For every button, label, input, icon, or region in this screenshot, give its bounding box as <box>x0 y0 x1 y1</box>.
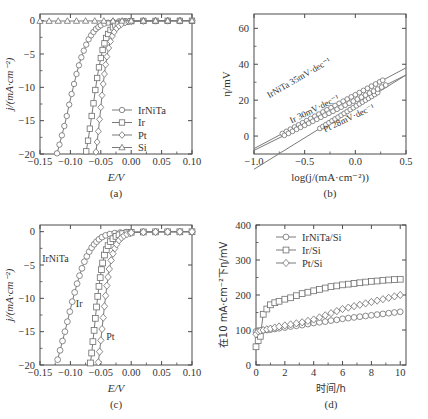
data-point-circle <box>340 316 346 322</box>
data-point-circle <box>374 312 380 318</box>
series-line <box>57 21 192 154</box>
data-point-diamond <box>103 61 109 68</box>
y-tick-label: −10 <box>19 82 35 93</box>
data-point-circle <box>64 113 69 118</box>
data-point-square <box>283 247 289 253</box>
data-point-circle <box>334 317 340 323</box>
data-point-diamond <box>386 294 392 301</box>
data-point-square <box>119 120 124 125</box>
x-tick-label: 0.5 <box>399 156 412 167</box>
x-tick-label: −0.05 <box>89 367 113 378</box>
data-point-diamond <box>108 257 114 264</box>
data-point-square <box>89 350 95 356</box>
y-tick-label: 20 <box>239 95 250 106</box>
data-point-square <box>328 284 334 290</box>
data-point-diamond <box>100 81 106 88</box>
data-point-square <box>100 47 105 52</box>
data-point-square <box>94 304 100 310</box>
data-point-square <box>253 344 259 350</box>
y-tick-label: 0 <box>246 360 251 371</box>
data-point-square <box>98 55 103 60</box>
annotation-irnita: IrNiTa 35mV·dec⁻¹ <box>265 55 332 100</box>
data-point-square <box>276 298 282 304</box>
x-tick-label: 0 <box>253 367 258 378</box>
x-tick-label: 10 <box>395 367 406 378</box>
data-point-diamond <box>105 273 111 280</box>
legend-label: Pt/Si <box>302 258 323 269</box>
panel-a: −0.15−0.10−0.050.000.050.100−5−10−15−20E… <box>0 0 214 210</box>
data-point-square <box>102 252 108 258</box>
x-tick-label: 0.05 <box>152 156 170 167</box>
legend-label: Si <box>138 142 147 153</box>
data-point-circle <box>57 142 62 147</box>
series-group <box>253 276 404 349</box>
x-tick-label: 2 <box>282 367 287 378</box>
legend-label: IrNiTa/Si <box>302 232 342 243</box>
series-IrNiTa <box>55 229 195 363</box>
data-point-square <box>91 101 96 106</box>
data-point-square <box>84 149 89 154</box>
data-point-diamond <box>397 291 403 298</box>
y-tick-label: −5 <box>24 49 35 60</box>
x-tick-label: 8 <box>369 367 374 378</box>
data-point-diamond <box>322 312 328 319</box>
data-point-diamond <box>94 139 100 146</box>
data-point-circle <box>380 78 385 83</box>
y-axis-label: j/(mA·cm⁻²) <box>3 268 16 323</box>
inline-label-ir: Ir <box>76 298 83 309</box>
y-tick-label: −10 <box>19 293 35 304</box>
data-point-circle <box>357 314 363 320</box>
axes-frame <box>256 225 406 365</box>
y-tick-label: 60 <box>239 23 250 34</box>
x-tick-label: 6 <box>340 367 345 378</box>
data-point-square <box>100 260 106 266</box>
data-point-circle <box>79 265 85 271</box>
axis-ticks: −1.0−0.50.00.50204060 <box>239 14 413 167</box>
x-axis-label: 时间/h <box>316 382 346 394</box>
y-tick-label: −20 <box>19 360 35 371</box>
data-point-diamond <box>391 293 397 300</box>
x-tick-label: 0.00 <box>122 156 140 167</box>
y-axis-label: j/(mA·cm⁻²) <box>3 57 16 112</box>
data-point-circle <box>62 123 67 128</box>
data-point-square <box>95 293 101 299</box>
data-point-square <box>311 288 317 294</box>
data-point-square <box>87 126 92 131</box>
data-point-square <box>96 283 102 289</box>
data-point-circle <box>54 151 59 156</box>
data-point-diamond <box>334 307 340 314</box>
data-point-circle <box>386 310 392 316</box>
data-point-circle <box>81 259 87 265</box>
y-tick-label: −20 <box>19 149 35 160</box>
y-axis-label: η/mV <box>220 71 232 96</box>
data-point-diamond <box>96 348 102 355</box>
data-point-diamond <box>119 132 125 139</box>
data-point-square <box>299 291 305 297</box>
panel-caption: (b) <box>324 187 337 200</box>
svg-b: −1.0−0.50.00.50204060log(j/(mA·cm⁻²))η/m… <box>214 0 428 210</box>
data-point-square <box>380 277 386 283</box>
data-point-diamond <box>104 282 110 289</box>
data-point-square <box>282 296 288 302</box>
data-point-square <box>92 315 98 321</box>
data-point-square <box>89 113 94 118</box>
data-point-diamond <box>97 116 103 123</box>
data-point-circle <box>76 63 81 68</box>
data-point-circle <box>67 309 73 315</box>
y-tick-label: −5 <box>24 260 35 271</box>
panel-d: 02468100100200300400时间/h在10 mA·cm⁻²下η/mV… <box>214 205 428 419</box>
x-tick-label: −0.10 <box>58 156 82 167</box>
series-Si <box>37 17 195 23</box>
y-tick-label: 400 <box>235 220 251 231</box>
data-point-square <box>288 295 294 301</box>
data-point-square <box>305 289 311 295</box>
data-point-diamond <box>374 297 380 304</box>
svg-a: −0.15−0.10−0.050.000.050.100−5−10−15−20E… <box>0 0 214 210</box>
data-point-diamond <box>98 337 104 344</box>
svg-c: −0.15−0.10−0.050.000.050.100−5−10−15−20E… <box>0 205 214 419</box>
legend-label: Pt <box>138 130 147 141</box>
x-tick-label: 0.05 <box>152 367 170 378</box>
data-point-circle <box>345 315 351 321</box>
data-point-square <box>317 287 323 293</box>
data-point-square <box>386 277 392 283</box>
